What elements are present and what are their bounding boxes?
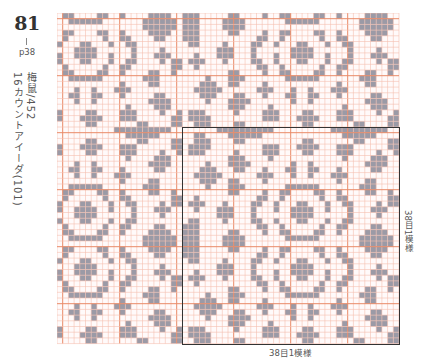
repeat-width-label: 38目1模様 xyxy=(269,346,312,358)
thread-color-label: 梅鼠/452 xyxy=(24,72,36,120)
divider-tick xyxy=(26,38,27,45)
repeat-height-label: 38目1模様 xyxy=(403,210,413,253)
pattern-number: 81 xyxy=(10,12,44,34)
page-reference: p38 xyxy=(10,47,44,57)
fabric-label: 16カウントアイーダ(101) xyxy=(11,72,23,207)
repeat-outline-box xyxy=(182,127,400,345)
